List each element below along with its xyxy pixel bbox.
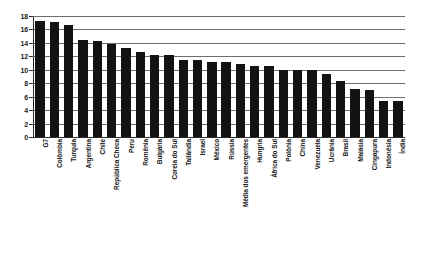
x-axis-label: Ucrânia <box>329 139 336 162</box>
x-axis-category-labels: G7ColômbiaTurquiaArgentinaChileRepública… <box>33 139 405 254</box>
y-tick-label-12: 12 <box>21 53 28 60</box>
x-axis-label: Turquia <box>71 139 78 162</box>
bar <box>264 66 273 137</box>
bar <box>221 62 230 137</box>
x-axis-label: Coreia do Sul <box>172 139 179 180</box>
bar <box>393 101 402 137</box>
x-axis-label: Malásia <box>358 139 365 162</box>
bar <box>379 101 388 137</box>
bar <box>193 60 202 137</box>
bar <box>207 62 216 137</box>
x-axis-label: G7 <box>43 139 50 147</box>
bar <box>179 60 188 137</box>
bar <box>236 64 245 137</box>
bar <box>93 41 102 137</box>
y-tick-label-18: 18 <box>21 13 28 20</box>
gridline-0 <box>33 137 405 138</box>
bar <box>293 70 302 137</box>
bar <box>350 89 359 137</box>
bar <box>50 22 59 137</box>
bar <box>64 25 73 137</box>
x-axis-label: Índia <box>400 139 407 154</box>
bar <box>365 90 374 137</box>
x-axis-label: Colômbia <box>57 139 64 168</box>
x-axis-label: Rússia <box>229 139 236 160</box>
bar <box>322 74 331 137</box>
plot-area <box>33 16 405 137</box>
y-tick-label-4: 4 <box>24 107 28 114</box>
y-tick-label-0: 0 <box>24 134 28 141</box>
x-axis-label: China <box>300 139 307 157</box>
x-axis-label: Chile <box>100 139 107 154</box>
y-tick-label-14: 14 <box>21 39 28 46</box>
bar <box>250 66 259 137</box>
x-axis-label: Cingapura <box>372 139 379 170</box>
x-axis-label: Argentina <box>86 139 93 168</box>
bar <box>164 55 173 137</box>
bar-chart: 024681012141618 G7ColômbiaTurquiaArgenti… <box>0 0 422 254</box>
x-axis-label: República Checa <box>114 139 121 190</box>
x-axis-label: Brasil <box>343 139 350 156</box>
y-tick-label-8: 8 <box>24 80 28 87</box>
bar <box>136 52 145 137</box>
x-axis-label: Israel <box>200 139 207 155</box>
y-tick-label-16: 16 <box>21 26 28 33</box>
bar <box>150 55 159 137</box>
x-axis-label: México <box>214 139 221 160</box>
y-tick-label-10: 10 <box>21 66 28 73</box>
x-axis-label: Bulgária <box>157 139 164 164</box>
bar <box>35 21 44 137</box>
bar-series <box>33 16 405 137</box>
x-axis-label: Venezuela <box>315 139 322 170</box>
y-tick-label-6: 6 <box>24 93 28 100</box>
x-axis-label: Média dos emergentes <box>243 139 250 207</box>
x-axis-label: Romênia <box>143 139 150 166</box>
x-axis-label: Peru <box>129 139 136 153</box>
x-axis-label: Indonésia <box>386 139 393 168</box>
x-axis-label: Hungria <box>257 139 264 163</box>
bar <box>107 44 116 137</box>
bar <box>336 81 345 137</box>
x-axis-label: Polônia <box>286 139 293 162</box>
bar <box>279 70 288 137</box>
x-axis-label: Tailândia <box>186 139 193 166</box>
bar <box>307 70 316 137</box>
x-axis-label: África do Sul <box>272 139 279 178</box>
y-axis-ticks: 024681012141618 <box>0 0 33 254</box>
y-tick-label-2: 2 <box>24 120 28 127</box>
bar <box>121 48 130 137</box>
bar <box>78 40 87 137</box>
